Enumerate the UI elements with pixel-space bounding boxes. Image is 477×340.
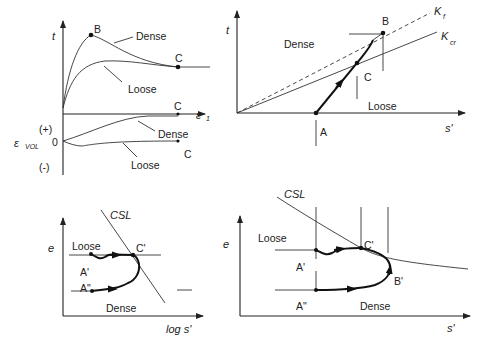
- peak-point-B: [89, 33, 94, 38]
- kcr-label: K: [441, 30, 449, 42]
- point-A: [314, 111, 319, 116]
- label-A-prime-right: A': [296, 261, 305, 273]
- loose-vol-curve: [63, 141, 178, 146]
- label-dense-region: Dense: [284, 38, 315, 50]
- kf-line: [237, 13, 430, 113]
- dense-vol-leader: [138, 121, 155, 131]
- label-dense: Dense: [136, 30, 167, 42]
- soil-behavior-diagram: t ε 1 B C C Dense Loose ε VOL (+) 0 (-) …: [0, 0, 477, 340]
- loose-arrow-right: [334, 249, 341, 250]
- kcr-sub: cr: [450, 39, 457, 46]
- panel-e-log-s: e log s' CSL Loose Dense A' A" C': [48, 209, 203, 335]
- kcr-line: [237, 32, 437, 113]
- label-loose: Loose: [128, 83, 157, 95]
- label-A-dprime-left: A": [80, 282, 91, 294]
- t-axis-label: t: [52, 30, 56, 42]
- label-loose-vol: Loose: [131, 159, 160, 171]
- point-C: [355, 61, 360, 66]
- label-A-prime-left: A': [80, 266, 89, 278]
- log-s-axis-label: log s': [166, 323, 192, 335]
- dense-path-left: [92, 255, 139, 291]
- eps1-axis-label: ε: [196, 109, 201, 121]
- label-C: C: [175, 52, 183, 64]
- label-loose-right: Loose: [258, 232, 287, 244]
- tick-zero: 0: [52, 136, 58, 148]
- csl-label-right: CSL: [284, 188, 305, 200]
- panel-volumetric-strain: ε VOL (+) 0 (-) C Dense Loose: [14, 116, 192, 173]
- dense-leader: [114, 37, 133, 43]
- s-axis-label-right: s': [445, 122, 454, 134]
- point-A-dprime-right: [314, 288, 318, 292]
- point-C-prime-left: [131, 253, 135, 257]
- eps1-axis-sub: 1: [206, 115, 210, 122]
- label-B-path: B: [382, 15, 389, 27]
- loose-leader: [104, 66, 122, 82]
- label-B: B: [94, 23, 101, 35]
- tick-minus: (-): [39, 161, 50, 173]
- tick-plus: (+): [39, 123, 52, 135]
- label-B-prime-right: B': [394, 275, 403, 287]
- t-axis-label-right: t: [226, 24, 230, 36]
- loose-curve: [63, 61, 178, 108]
- point-A-prime-right: [314, 248, 318, 252]
- csl-curve-right: [277, 197, 468, 269]
- label-loose-region: Loose: [368, 100, 397, 112]
- label-dense-right: Dense: [360, 300, 391, 312]
- kf-label: K: [434, 5, 442, 17]
- eps-vol-label: ε: [14, 137, 19, 149]
- dense-curve: [63, 35, 210, 108]
- label-C-vol: C: [184, 148, 192, 160]
- loose-vol-leader: [123, 143, 137, 157]
- label-C-prime-left: C': [136, 242, 146, 254]
- label-C-path: C: [364, 71, 372, 83]
- point-A-prime-left: [89, 252, 93, 256]
- point-A-dprime-left: [90, 289, 94, 293]
- e-axis-label-left: e: [48, 242, 54, 254]
- critical-point-C-axis: [176, 112, 179, 115]
- s-axis-label-bottom-right: s': [447, 322, 456, 334]
- label-A-dprime-right: A": [296, 300, 307, 312]
- label-A: A: [320, 126, 327, 138]
- panel-stress-path: t s' K f K cr Dense Loose A B C: [226, 5, 465, 146]
- label-C-axis: C: [174, 100, 182, 112]
- kf-sub: f: [443, 13, 446, 20]
- eps-vol-sub: VOL: [25, 143, 39, 150]
- label-dense-left: Dense: [106, 302, 137, 314]
- csl-label-left: CSL: [110, 209, 131, 221]
- e-axis-label-right: e: [223, 238, 229, 250]
- peak-arrow-right: [389, 269, 390, 275]
- point-B: [381, 31, 386, 36]
- label-loose-left: Loose: [72, 240, 101, 252]
- point-C-prime-right: [359, 246, 363, 250]
- label-dense-vol: Dense: [158, 128, 189, 140]
- panel-e-s: e s' CSL Loose Dense A' A" C' B': [223, 188, 470, 334]
- critical-point-C: [176, 65, 181, 70]
